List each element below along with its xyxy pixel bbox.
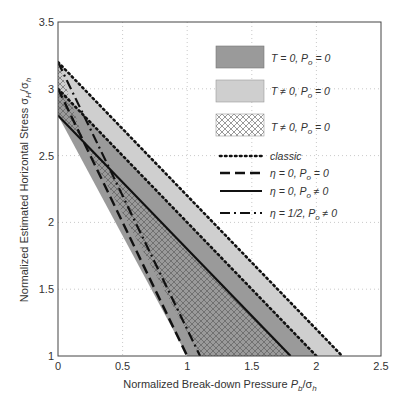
svg-text:3: 3	[48, 83, 54, 95]
svg-text:0: 0	[55, 360, 61, 372]
svg-text:1: 1	[184, 360, 190, 372]
svg-text:2: 2	[313, 360, 319, 372]
svg-text:2: 2	[48, 216, 54, 228]
svg-text:0.5: 0.5	[115, 360, 130, 372]
legend-patch-hatched	[216, 114, 264, 136]
y-axis-ticks: 1 1.5 2 2.5 3 3.5	[39, 16, 54, 362]
legend-label-classic: classic	[270, 150, 302, 162]
legend-label-3: T ≠ 0, Po = 0	[271, 121, 330, 136]
svg-text:3.5: 3.5	[39, 16, 54, 28]
legend-label-1: T = 0, Po = 0	[271, 52, 330, 67]
legend-label-2: T ≠ 0, Po = 0	[271, 85, 330, 100]
svg-text:1.5: 1.5	[244, 360, 259, 372]
svg-text:2.5: 2.5	[39, 150, 54, 162]
svg-text:1.5: 1.5	[39, 283, 54, 295]
svg-text:1: 1	[48, 350, 54, 362]
legend: T = 0, Po = 0 T ≠ 0, Po = 0 T ≠ 0, Po = …	[216, 46, 337, 222]
legend-label-5: η = 0, Po ≠ 0	[270, 185, 329, 200]
svg-text:2.5: 2.5	[373, 360, 388, 372]
x-axis-label: Normalized Break-down Pressure Pb/σh	[123, 378, 317, 393]
y-axis-label: Normalized Estimated Horizontal Stress σ…	[18, 77, 33, 302]
legend-label-6: η = 1/2, Po ≠ 0	[270, 207, 337, 222]
legend-patch-light	[216, 80, 264, 102]
chart: T = 0, Po = 0 T ≠ 0, Po = 0 T ≠ 0, Po = …	[0, 0, 408, 403]
legend-label-4: η = 0, Po = 0	[270, 167, 329, 182]
legend-patch-dark	[216, 46, 264, 68]
x-axis-ticks: 0 0.5 1 1.5 2 2.5	[55, 360, 389, 372]
